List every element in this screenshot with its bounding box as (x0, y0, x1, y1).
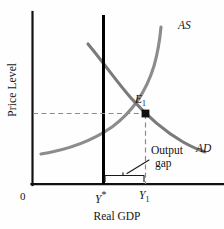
x-tick-actual-output: Y1 (139, 190, 149, 204)
chart-canvas (0, 0, 224, 229)
aggregate-demand-curve (88, 44, 205, 152)
aggregate-supply-label: AS (178, 20, 191, 32)
aggregate-supply-curve (41, 27, 161, 154)
output-gap-annotation-line1: Output (151, 144, 183, 157)
equilibrium-marker (142, 110, 150, 118)
equilibrium-label: E1 (135, 94, 146, 108)
y-axis-title: Price Level (7, 54, 19, 126)
x-tick-actual-output-mark: 1 (145, 195, 149, 204)
x-tick-potential-output-mark: * (101, 189, 106, 200)
aggregate-demand-label: AD (196, 143, 211, 155)
output-gap-annotation-line2: gap (151, 157, 183, 170)
output-gap-brace (105, 173, 144, 182)
output-gap-annotation: Output gap (151, 144, 183, 170)
x-tick-potential-output: Y* (95, 190, 106, 205)
equilibrium-label-sub: 1 (142, 99, 146, 108)
x-axis-title: Real GDP (62, 211, 172, 223)
equilibrium-label-base: E (135, 93, 142, 105)
ad-as-output-gap-figure: Price Level Real GDP 0 Y* Y1 AS AD E1 Ou… (0, 0, 224, 229)
origin-label: 0 (20, 191, 26, 202)
